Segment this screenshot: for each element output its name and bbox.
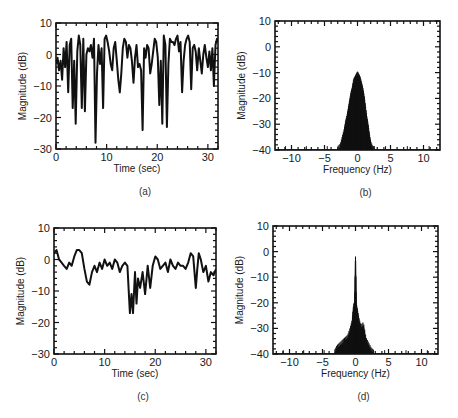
- x-tick-label: 0: [354, 152, 360, 164]
- panel-caption: (d): [357, 391, 369, 402]
- data-series: [54, 250, 216, 313]
- signal-line: [54, 250, 216, 313]
- panel-caption: (a): [139, 186, 151, 197]
- y-tick-label: −30: [250, 322, 269, 334]
- y-tick-label: 0: [46, 49, 52, 61]
- x-axis-label: Frequency (Hz): [321, 368, 390, 379]
- figure-canvas: 0102030100−10−20−30Time (sec)Magnitude (…: [0, 0, 458, 418]
- y-tick-label: 0: [263, 246, 269, 258]
- x-tick-label: 10: [415, 356, 427, 368]
- x-tick-label: −5: [316, 356, 329, 368]
- x-tick-label: 0: [51, 356, 57, 368]
- data-series: [56, 36, 218, 143]
- panel-caption: (c): [137, 391, 149, 402]
- y-tick-label: −10: [250, 271, 269, 283]
- x-tick-label: 30: [200, 356, 212, 368]
- panel-caption: (b): [359, 187, 371, 198]
- x-tick-label: 20: [151, 151, 163, 163]
- y-axis-label: Magnitude (dB): [15, 257, 26, 325]
- y-tick-label: −20: [250, 297, 269, 309]
- panel-b: −10−50510100−10−20−30−40Frequency (Hz)Ma…: [236, 15, 440, 198]
- x-tick-label: 10: [417, 152, 429, 164]
- data-series: [275, 72, 440, 153]
- y-axis-label: Magnitude (dB): [234, 256, 245, 324]
- y-tick-label: −10: [252, 67, 271, 79]
- x-tick-label: 0: [352, 356, 358, 368]
- y-tick-label: −20: [33, 112, 52, 124]
- y-tick-label: 0: [44, 254, 50, 266]
- y-tick-label: −30: [31, 348, 50, 360]
- y-tick-label: −30: [33, 143, 52, 155]
- y-tick-label: −20: [31, 317, 50, 329]
- x-tick-label: 10: [101, 151, 113, 163]
- y-tick-label: 10: [38, 222, 50, 234]
- y-tick-label: −10: [31, 285, 50, 297]
- x-tick-label: 20: [149, 356, 161, 368]
- x-axis-label: Time (sec): [114, 163, 161, 174]
- y-tick-label: 10: [40, 17, 52, 29]
- y-tick-label: 0: [265, 41, 271, 53]
- y-tick-label: −40: [252, 144, 271, 156]
- y-tick-label: −40: [250, 348, 269, 360]
- x-tick-label: 30: [202, 151, 214, 163]
- x-tick-label: 0: [53, 151, 59, 163]
- x-tick-label: 5: [387, 152, 393, 164]
- y-tick-label: −10: [33, 80, 52, 92]
- x-axis-label: Time (sec): [112, 368, 159, 379]
- y-axis-label: Magnitude (dB): [17, 52, 28, 120]
- x-axis-label: Frequency (Hz): [323, 164, 392, 175]
- x-tick-label: −10: [280, 356, 299, 368]
- panel-c: 0102030100−10−20−30Time (sec)Magnitude (…: [15, 222, 216, 402]
- x-tick-label: −10: [282, 152, 301, 164]
- y-axis-label: Magnitude (dB): [236, 51, 247, 119]
- data-series: [273, 257, 438, 357]
- panel-a: 0102030100−10−20−30Time (sec)Magnitude (…: [17, 17, 218, 197]
- x-tick-label: −5: [318, 152, 331, 164]
- x-tick-label: 5: [385, 356, 391, 368]
- panel-d: −10−50510100−10−20−30−40Frequency (Hz)Ma…: [234, 220, 438, 402]
- y-tick-label: −30: [252, 118, 271, 130]
- y-tick-label: −20: [252, 92, 271, 104]
- signal-line: [56, 36, 218, 143]
- y-tick-label: 10: [257, 220, 269, 232]
- x-tick-label: 10: [99, 356, 111, 368]
- y-tick-label: 10: [259, 15, 271, 27]
